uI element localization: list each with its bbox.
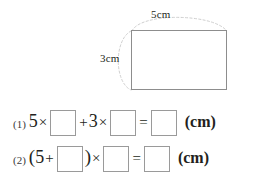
operator-symbol: × xyxy=(91,150,101,166)
answer-box[interactable] xyxy=(50,110,76,136)
height-dimension-label: 3cm xyxy=(100,53,120,64)
number-term: 5 xyxy=(35,147,44,167)
answer-box[interactable] xyxy=(103,146,129,172)
width-arc xyxy=(132,17,226,31)
operator-symbol: + xyxy=(44,150,54,166)
operator-symbol: × xyxy=(98,114,108,130)
number-term: 3 xyxy=(89,111,98,131)
unit-label: (cm) xyxy=(185,113,216,130)
operator-symbol: + xyxy=(78,114,88,130)
parenthesis: ) xyxy=(85,146,91,167)
answer-box[interactable] xyxy=(144,146,170,172)
answer-box[interactable] xyxy=(57,146,83,172)
operator-symbol: = xyxy=(138,114,148,130)
equation-body-2: (5+)×=(cm) xyxy=(29,146,209,172)
operator-symbol: × xyxy=(38,114,48,130)
rectangle-diagram xyxy=(0,0,254,100)
equation-body-1: 5×+3×=(cm) xyxy=(29,110,216,136)
figure-area: 5cm 3cm xyxy=(0,0,254,100)
equation-number-2: (2) xyxy=(13,154,26,166)
worksheet: 5cm 3cm (1) 5×+3×=(cm) (2) (5+)×=(cm) xyxy=(0,0,254,183)
answer-box[interactable] xyxy=(110,110,136,136)
equation-row-1: (1) 5×+3×=(cm) xyxy=(0,104,254,142)
equation-number-1: (1) xyxy=(13,118,26,130)
operator-symbol: = xyxy=(131,150,141,166)
width-dimension-label: 5cm xyxy=(151,9,171,20)
equation-row-2: (2) (5+)×=(cm) xyxy=(0,140,254,178)
unit-label: (cm) xyxy=(178,149,209,166)
answer-box[interactable] xyxy=(151,110,177,136)
rectangle-shape xyxy=(132,31,227,90)
number-term: 5 xyxy=(29,111,38,131)
height-arc xyxy=(118,31,131,90)
